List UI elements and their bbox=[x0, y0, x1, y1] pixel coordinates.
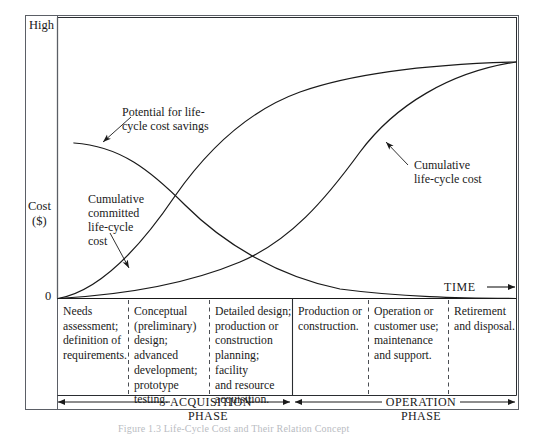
phase-label-operation: OPERATION PHASE bbox=[382, 395, 460, 423]
y-axis-cost-units-label: ($) bbox=[32, 214, 47, 229]
stage-box-conceptual-design: Conceptual (preliminary) design; advance… bbox=[134, 305, 208, 408]
y-axis-high-label: High bbox=[29, 18, 54, 33]
stage-box-production: Production or construction. bbox=[298, 305, 370, 334]
phase-label-acquisition: ACQUISITION PHASE bbox=[170, 395, 246, 423]
annotation-cumulative-committed-cost: Cumulative committed life-cycle cost bbox=[88, 192, 144, 249]
x-axis-time-label: TIME bbox=[444, 280, 476, 294]
stage-box-retirement: Retirement and disposal. bbox=[454, 305, 520, 334]
annotation-cumulative-life-cycle-cost: Cumulative life-cycle cost bbox=[414, 158, 482, 186]
y-axis-zero-label: 0 bbox=[45, 289, 51, 304]
stage-box-detailed-design: Detailed design; production or construct… bbox=[215, 305, 293, 408]
stage-box-needs-assessment: Needs assessment; definition of requirem… bbox=[63, 305, 127, 364]
figure-caption: Figure 1.3 Life-Cycle Cost and Their Rel… bbox=[118, 423, 349, 434]
annotation-potential-savings: Potential for life- cycle cost savings bbox=[122, 105, 209, 133]
leader-cumulative-life-cycle-cost bbox=[386, 142, 408, 165]
stage-box-operation: Operation or customer use; maintenance a… bbox=[374, 305, 448, 364]
y-axis-cost-label: Cost bbox=[28, 199, 51, 214]
